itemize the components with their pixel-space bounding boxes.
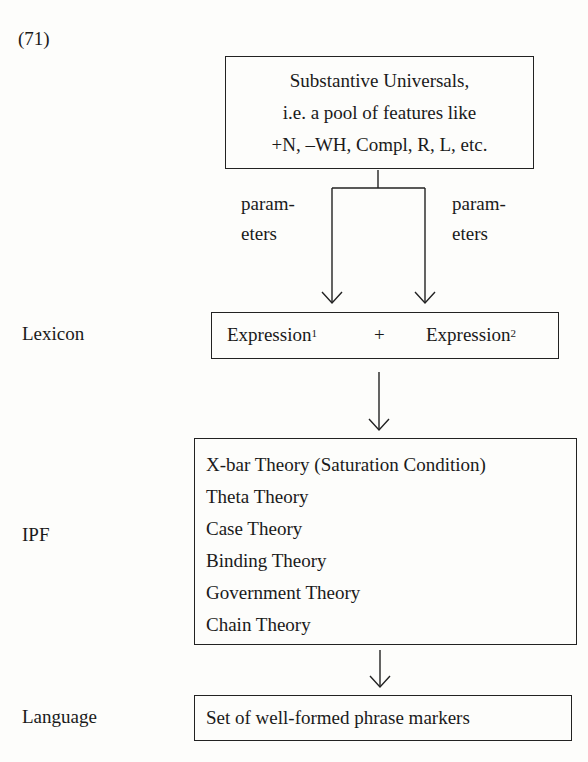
connector-arrows <box>0 0 588 762</box>
plus-sign: + <box>374 323 385 347</box>
level-label-lexicon: Lexicon <box>22 322 84 346</box>
language-box: Set of well-formed phrase markers <box>194 695 572 741</box>
lexicon-box: Expression1 + Expression2 <box>211 312 559 359</box>
ipf-item: Chain Theory <box>206 609 486 641</box>
branch-label-line: param- <box>452 189 506 219</box>
branch-label-line: param- <box>241 189 295 219</box>
ipf-item: X-bar Theory (Saturation Condition) <box>206 449 486 481</box>
level-label-ipf: IPF <box>22 523 49 547</box>
ipf-item: Case Theory <box>206 513 486 545</box>
right-branch-label: param- eters <box>452 189 506 249</box>
ipf-item: Theta Theory <box>206 481 486 513</box>
expression-1: Expression1 <box>227 323 317 347</box>
language-text: Set of well-formed phrase markers <box>206 706 470 730</box>
ipf-box: X-bar Theory (Saturation Condition) Thet… <box>194 438 577 645</box>
ipf-item: Binding Theory <box>206 545 486 577</box>
branch-label-line: eters <box>452 219 506 249</box>
branch-label-line: eters <box>241 219 295 249</box>
level-label-language: Language <box>22 705 97 729</box>
ipf-item: Government Theory <box>206 577 486 609</box>
expression-2: Expression2 <box>426 323 516 347</box>
left-branch-label: param- eters <box>241 189 295 249</box>
